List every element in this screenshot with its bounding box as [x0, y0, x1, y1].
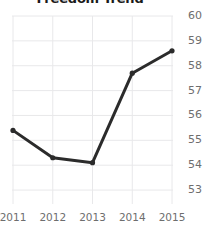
x-axis-tick-label: 2014 [119, 212, 146, 223]
x-axis-tick-label: 2015 [159, 212, 186, 223]
y-axis-tick-label: 56 [188, 109, 202, 120]
x-axis-tick-label: 2013 [79, 212, 106, 223]
y-axis-tick-label: 53 [188, 184, 202, 195]
y-axis-tick-label: 54 [188, 159, 202, 170]
y-axis-tick-label: 60 [188, 10, 202, 21]
x-axis-tick-label: 2012 [39, 212, 66, 223]
line-chart: Freedom Trend 6059585756555453 201120122… [0, 0, 204, 233]
y-axis-tick-label: 58 [188, 60, 202, 71]
y-axis-tick-label: 59 [188, 35, 202, 46]
chart-plot-area [0, 0, 204, 233]
x-axis-tick-label: 2011 [0, 212, 26, 223]
y-axis-tick-label: 55 [188, 134, 202, 145]
y-axis-tick-label: 57 [188, 85, 202, 96]
vertical-gridlines [13, 16, 172, 204]
